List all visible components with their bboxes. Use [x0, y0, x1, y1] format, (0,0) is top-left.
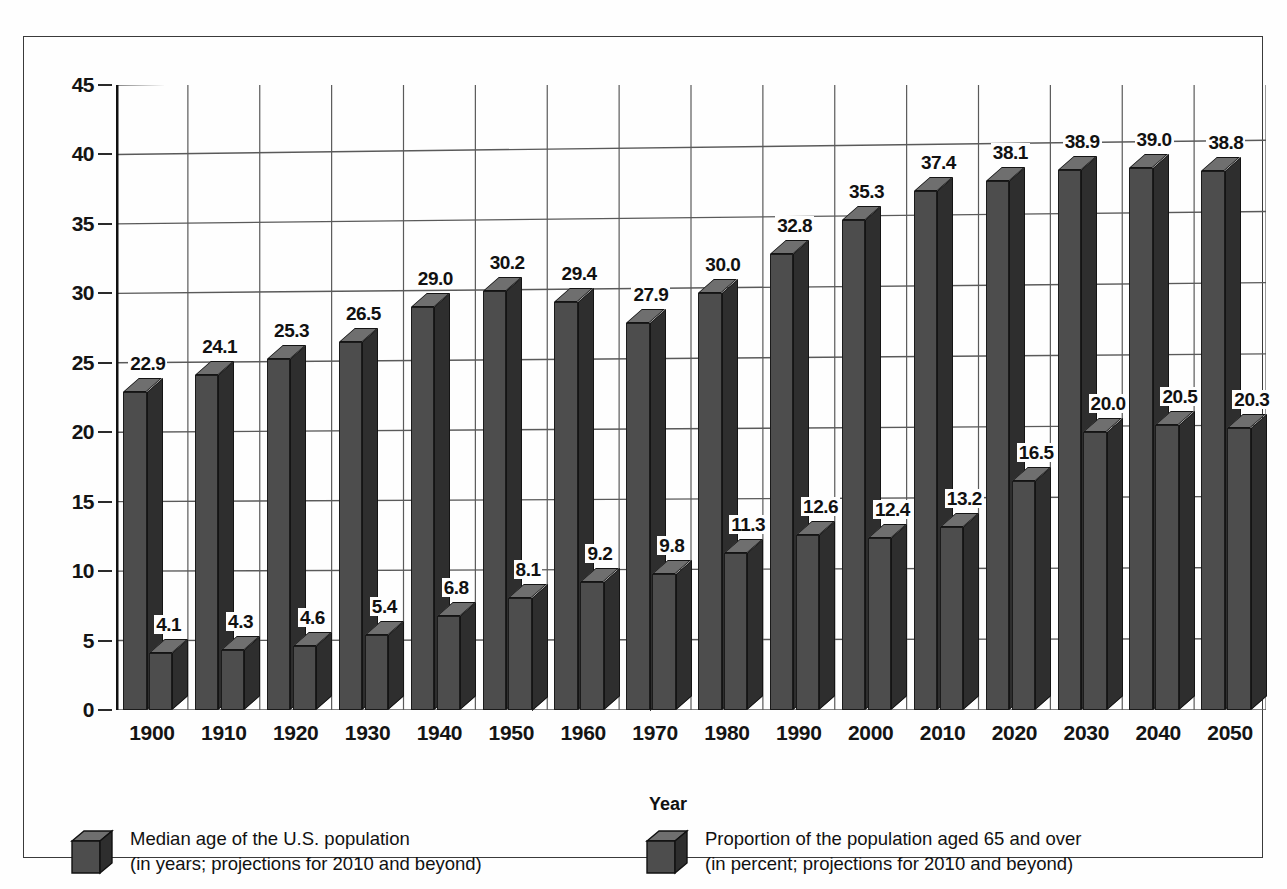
legend-item-median-age: Median age of the U.S. population(in yea…	[70, 827, 482, 876]
chart-legend: Median age of the U.S. population(in yea…	[70, 827, 1260, 889]
bar-median-age-2000	[842, 206, 865, 710]
bar-front-face	[1129, 168, 1152, 710]
bar-front-face	[1058, 170, 1081, 710]
bar-median-age-1960	[554, 288, 577, 710]
bar-front-face	[554, 302, 577, 710]
y-axis-tick-label: 30	[72, 281, 94, 305]
legend-label: Median age of the U.S. population(in yea…	[130, 827, 482, 876]
x-axis-tick-label: 1970	[632, 721, 678, 745]
bar-pct-65-over-2000	[868, 524, 891, 710]
bar-median-age-2050	[1201, 157, 1224, 710]
bar-pct-65-over-2040	[1155, 411, 1178, 710]
bar-front-face	[626, 323, 649, 711]
bar-series-container: 22.94.124.14.325.34.626.55.429.06.830.28…	[116, 85, 1266, 710]
bar-side-face	[676, 560, 692, 710]
x-axis-tick-label: 2010	[920, 721, 966, 745]
bar-value-label: 38.1	[991, 143, 1030, 162]
bar-front-face	[195, 375, 218, 710]
bar-front-face	[508, 598, 531, 711]
bar-front-face	[1155, 425, 1178, 710]
bar-side-face	[1107, 418, 1123, 710]
y-axis-tick-mark	[98, 292, 112, 294]
x-axis-tick-label: 1940	[417, 721, 463, 745]
legend-label-line2: (in years; projections for 2010 and beyo…	[130, 852, 482, 877]
bar-median-age-1940	[411, 293, 434, 710]
bar-front-face	[339, 342, 362, 710]
bar-front-face	[652, 574, 675, 710]
bar-front-face	[580, 582, 603, 710]
y-axis-tick-label: 35	[72, 212, 94, 236]
legend-label-line1: Median age of the U.S. population	[130, 827, 482, 852]
bar-front-face	[293, 646, 316, 710]
bar-value-label: 38.9	[1063, 132, 1102, 151]
x-axis-tick-label: 1960	[560, 721, 606, 745]
bar-value-label: 4.1	[154, 615, 183, 634]
bar-value-label: 37.4	[919, 153, 958, 172]
bar-value-label: 35.3	[847, 182, 886, 201]
x-axis-tick-label: 2030	[1064, 721, 1110, 745]
bar-value-label: 12.6	[801, 497, 840, 516]
bar-front-face	[267, 359, 290, 710]
bar-median-age-1910	[195, 361, 218, 710]
bar-median-age-1990	[770, 240, 793, 710]
legend-label-line2: (in percent; projections for 2010 and be…	[705, 852, 1081, 877]
bar-value-label: 32.8	[775, 216, 814, 235]
bar-front-face	[149, 653, 172, 710]
bar-front-face	[1227, 428, 1250, 710]
x-axis-tick-label: 2040	[1135, 721, 1181, 745]
bar-side-face	[388, 621, 404, 710]
bar-side-face	[532, 583, 548, 710]
y-axis-tick-label: 5	[83, 629, 94, 653]
bar-side-face	[604, 568, 620, 710]
bar-value-label: 30.2	[488, 253, 527, 272]
bar-value-label: 27.9	[631, 285, 670, 304]
bar-value-label: 20.3	[1232, 390, 1271, 409]
x-axis-tick-label: 2000	[848, 721, 894, 745]
x-axis-tick-label: 1910	[201, 721, 247, 745]
bar-side-face	[1251, 414, 1267, 710]
bar-value-label: 4.3	[226, 612, 255, 631]
chart-frame: 051015202530354045 22.94.124.14.325.34.6…	[23, 36, 1263, 858]
bar-value-label: 4.6	[298, 608, 327, 627]
x-axis-tick-labels: 1900191019201930194019501960197019801990…	[116, 721, 1266, 755]
bar-value-label: 20.5	[1160, 387, 1199, 406]
bar-front-face	[940, 527, 963, 710]
bar-side-face	[819, 521, 835, 710]
bar-front-face	[221, 650, 244, 710]
bar-value-label: 5.4	[370, 597, 399, 616]
legend-label: Proportion of the population aged 65 and…	[705, 827, 1081, 876]
bar-pct-65-over-1960	[580, 568, 603, 710]
bar-front-face	[868, 538, 891, 710]
bar-value-label: 9.2	[585, 544, 614, 563]
bar-value-label: 29.0	[416, 269, 455, 288]
bar-pct-65-over-1980	[724, 539, 747, 710]
x-axis-tick-label: 1900	[129, 721, 175, 745]
bar-side-face	[891, 524, 907, 710]
bar-value-label: 38.8	[1206, 133, 1245, 152]
bar-front-face	[770, 254, 793, 710]
y-axis-tick-label: 10	[72, 559, 94, 583]
bar-pct-65-over-2010	[940, 513, 963, 710]
y-axis-tick-mark	[98, 223, 112, 225]
bar-pct-65-over-1950	[508, 584, 531, 711]
x-axis-tick-label: 2020	[992, 721, 1038, 745]
legend-swatch-cube-icon	[70, 829, 114, 875]
y-axis-tick-mark	[98, 640, 112, 642]
y-axis-tick-mark	[98, 709, 112, 711]
y-axis-tick-label: 20	[72, 420, 94, 444]
bar-value-label: 29.4	[560, 264, 599, 283]
bar-value-label: 9.8	[657, 536, 686, 555]
bar-front-face	[365, 635, 388, 710]
plot-area: 051015202530354045 22.94.124.14.325.34.6…	[70, 85, 1266, 745]
bar-side-face	[963, 513, 979, 710]
bar-value-label: 8.1	[514, 560, 543, 579]
bar-front-face	[842, 220, 865, 710]
y-axis-tick-label: 40	[72, 142, 94, 166]
legend-label-line1: Proportion of the population aged 65 and…	[705, 827, 1081, 852]
bar-front-face	[411, 307, 434, 710]
bar-median-age-2030	[1058, 156, 1081, 710]
bar-value-label: 39.0	[1135, 130, 1174, 149]
bar-median-age-2020	[986, 167, 1009, 710]
legend-item-pct-65-over: Proportion of the population aged 65 and…	[645, 827, 1081, 876]
bar-front-face	[986, 181, 1009, 710]
